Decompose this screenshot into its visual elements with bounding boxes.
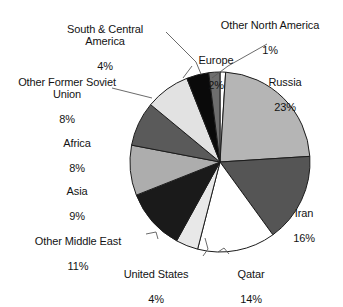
pie-label-name: Iran: [276, 207, 332, 220]
pie-label-name: South & Central America: [42, 23, 168, 48]
pie-label-qatar: Qatar 14%: [216, 255, 286, 307]
pie-label-percent: 9%: [44, 210, 110, 223]
pie-label-name: Africa: [44, 137, 110, 150]
pie-label-name: United States: [104, 268, 208, 281]
pie-label-europe: Europe 2%: [186, 41, 246, 104]
pie-label-name: Other North America: [200, 19, 340, 32]
pie-label-name: Qatar: [216, 268, 286, 281]
pie-label-name: Asia: [44, 185, 110, 198]
pie-label-name: Russia: [252, 76, 318, 89]
pie-label-name: Europe: [186, 54, 246, 67]
pie-label-name: Other Middle East: [12, 235, 144, 248]
pie-label-united-states: United States 4%: [104, 255, 208, 307]
leader-line-other-middle-east: [146, 232, 158, 239]
pie-label-name: Other Former Soviet Union: [2, 76, 132, 101]
pie-label-iran: Iran 16%: [276, 194, 332, 257]
pie-label-percent: 4%: [104, 293, 208, 306]
pie-label-percent: 16%: [276, 232, 332, 245]
pie-label-russia: Russia 23%: [252, 63, 318, 126]
pie-label-percent: 2%: [186, 79, 246, 92]
pie-label-percent: 23%: [252, 101, 318, 114]
pie-label-percent: 14%: [216, 293, 286, 306]
